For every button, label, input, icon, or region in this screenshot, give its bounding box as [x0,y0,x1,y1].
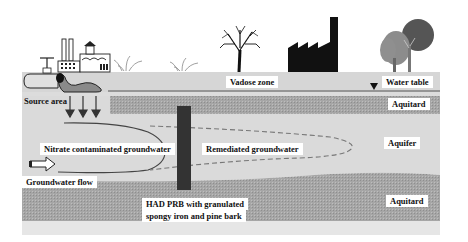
nitrate-groundwater-label: Nitrate contaminated groundwater [40,143,175,155]
pipe-icon [24,74,58,88]
bare-tree-icon [220,26,260,72]
upper-aquitard-label: Aquitard [388,98,430,110]
source-area-label: Source area [24,96,67,106]
factory-icon [58,39,110,72]
remediated-groundwater-label: Remediated groundwater [202,143,303,155]
grass-icon [170,58,198,71]
lower-aquitard-label: Aquitard [386,195,428,207]
groundwater-flow-label: Groundwater flow [22,176,97,188]
trees-icon [380,19,434,72]
grass-icon [114,56,142,71]
prb-label-line2: spongy iron and pine bark [142,210,246,222]
groundwater-remediation-diagram: Source area Vadose zone Water table Aqui… [0,0,468,242]
factory-silhouette-icon [288,17,338,72]
water-table-label: Water table [382,76,433,88]
prb-barrier [177,106,191,190]
prb-label-line1: HAD PRB with granulated [142,198,248,210]
vadose-zone-label: Vadose zone [226,76,278,88]
aquifer-label: Aquifer [384,137,420,149]
